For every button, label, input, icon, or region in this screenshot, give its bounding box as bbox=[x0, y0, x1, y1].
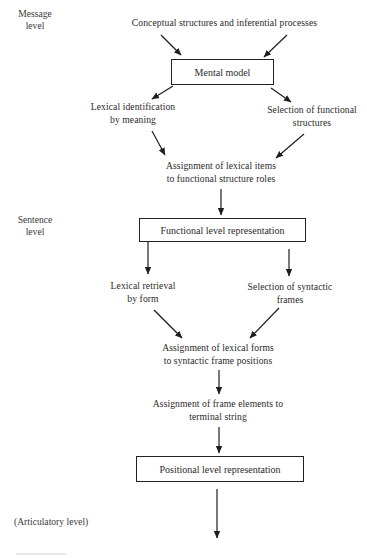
level-label-sentence: Sentence level bbox=[12, 214, 58, 238]
level-label-message-line2: level bbox=[12, 20, 58, 32]
level-label-sentence-line1: Sentence bbox=[12, 214, 58, 226]
node-functional-level-label: Functional level representation bbox=[161, 225, 285, 236]
level-label-message: Message level bbox=[12, 8, 58, 32]
level-label-message-line1: Message bbox=[12, 8, 58, 20]
node-assignment-frame-elements: Assignment of frame elements to terminal… bbox=[143, 398, 293, 423]
node-selection-syntactic-line2: frames bbox=[240, 294, 340, 307]
node-assignment-lexical-forms-line1: Assignment of lexical forms bbox=[153, 342, 283, 355]
node-conceptual-structures: Conceptual structures and inferential pr… bbox=[117, 17, 332, 30]
arrow-mental-to-selection-functional bbox=[271, 88, 291, 102]
level-label-sentence-line2: level bbox=[12, 226, 58, 238]
node-assignment-frame-elements-line1: Assignment of frame elements to bbox=[143, 398, 293, 411]
node-assignment-lexical-forms: Assignment of lexical forms to syntactic… bbox=[153, 342, 283, 367]
arrow-mental-to-lexical-identification bbox=[152, 86, 173, 99]
node-assignment-lexical-items: Assignment of lexical items to functiona… bbox=[156, 160, 286, 185]
node-lexical-retrieval-line1: Lexical retrieval bbox=[103, 280, 183, 293]
node-selection-functional: Selection of functional structures bbox=[258, 104, 366, 129]
node-selection-syntactic: Selection of syntactic frames bbox=[240, 281, 340, 306]
node-selection-syntactic-line1: Selection of syntactic bbox=[240, 281, 340, 294]
node-mental-model: Mental model bbox=[171, 59, 274, 85]
caption-fragment bbox=[16, 553, 66, 555]
arrow-conceptual-to-mental-right bbox=[264, 35, 287, 57]
node-positional-level-label: Positional level representation bbox=[159, 464, 280, 475]
node-assignment-lexical-items-line1: Assignment of lexical items bbox=[156, 160, 286, 173]
node-lexical-identification-line1: Lexical identification bbox=[83, 101, 183, 114]
node-assignment-frame-elements-line2: terminal string bbox=[143, 411, 293, 424]
node-assignment-lexical-items-line2: to functional structure roles bbox=[156, 173, 286, 186]
arrow-conceptual-to-mental-left bbox=[161, 35, 181, 55]
node-positional-level: Positional level representation bbox=[136, 456, 304, 482]
node-selection-functional-line2: structures bbox=[258, 117, 366, 130]
node-lexical-retrieval: Lexical retrieval by form bbox=[103, 280, 183, 305]
node-mental-model-label: Mental model bbox=[195, 67, 251, 78]
node-selection-functional-line1: Selection of functional bbox=[258, 104, 366, 117]
arrow-lexical-identification-to-assignment bbox=[152, 131, 165, 155]
arrow-lexical-retrieval-to-assignment bbox=[154, 310, 182, 338]
level-label-articulatory: (Articulatory level) bbox=[14, 516, 88, 528]
node-assignment-lexical-forms-line2: to syntactic frame positions bbox=[153, 355, 283, 368]
node-functional-level: Functional level representation bbox=[139, 218, 306, 242]
node-lexical-identification-line2: by meaning bbox=[83, 114, 183, 127]
node-lexical-identification: Lexical identification by meaning bbox=[83, 101, 183, 126]
arrow-selection-syntactic-to-assignment bbox=[250, 308, 279, 338]
arrow-selection-functional-to-assignment bbox=[276, 134, 304, 158]
node-lexical-retrieval-line2: by form bbox=[103, 293, 183, 306]
